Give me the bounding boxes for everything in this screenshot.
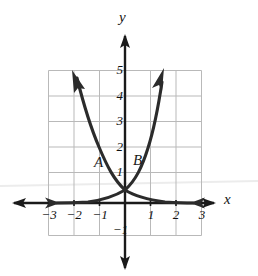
y-tick-label-neg1: −1: [110, 223, 128, 236]
x-tick-label-3: 3: [194, 208, 210, 221]
curve-label-a: A: [94, 155, 103, 170]
y-axis-label: y: [119, 10, 126, 25]
curve-label-b: B: [133, 153, 142, 168]
y-tick-label-4: 4: [111, 89, 123, 102]
y-tick-label-2: 2: [111, 140, 123, 153]
x-tick-label-1: 1: [143, 208, 159, 221]
y-tick-label-5: 5: [111, 63, 123, 76]
curve-a: [72, 70, 205, 209]
x-tick-label-neg1: −1: [89, 208, 111, 221]
y-tick-label-1: 1: [112, 165, 123, 178]
curve-b-arrowhead: [152, 68, 164, 91]
y-tick-label-3: 3: [111, 114, 123, 127]
x-tick-label-2: 2: [168, 208, 184, 221]
x-tick-label-neg2: −2: [63, 208, 85, 221]
curve-b: [45, 68, 164, 209]
exponential-functions-figure: y x −3 −2 −1 1 2 3 −1 1 2 3 4 5 A B: [0, 0, 258, 276]
x-tick-label-neg3: −3: [38, 208, 60, 221]
x-axis-label: x: [224, 192, 231, 207]
coordinate-plane: [0, 0, 258, 276]
